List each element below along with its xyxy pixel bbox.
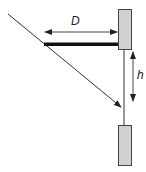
diagram-canvas: D h — [0, 0, 146, 172]
bottom-block — [119, 126, 132, 166]
top-block — [119, 10, 132, 50]
diagonal-ray-arrow — [8, 14, 121, 107]
distance-label: D — [71, 14, 80, 28]
horizontal-bar — [44, 43, 118, 47]
height-label: h — [137, 68, 144, 82]
